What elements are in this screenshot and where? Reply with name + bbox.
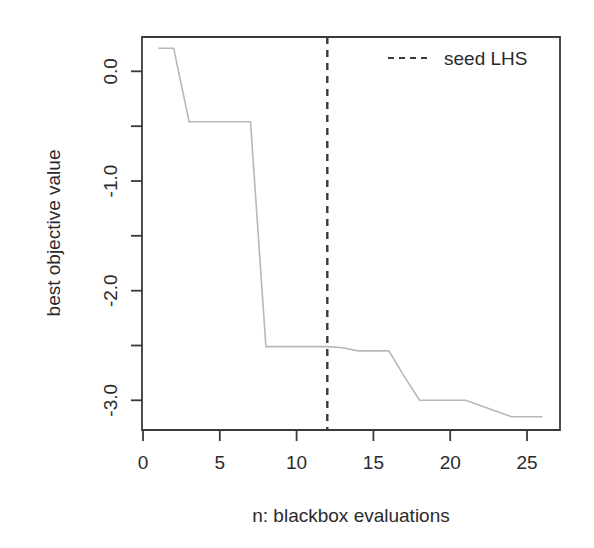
y-axis-title: best objective value [43,150,64,317]
y-tick-label-3: -3.0 [100,384,121,417]
y-axis-ticks [131,71,142,400]
y-tick-label-1: -1.0 [100,165,121,198]
chart-figure: 0.0 -1.0 -2.0 -3.0 0 5 10 15 20 25 n: bl… [0,0,594,548]
x-axis-tick-labels: 0 5 10 15 20 25 [138,452,538,473]
x-axis-title: n: blackbox evaluations [252,505,450,526]
x-tick-label-2: 10 [286,452,307,473]
data-line-path [158,48,542,417]
chart-canvas: 0.0 -1.0 -2.0 -3.0 0 5 10 15 20 25 n: bl… [0,0,594,548]
y-axis-tick-labels: 0.0 -1.0 -2.0 -3.0 [100,58,121,417]
x-axis-ticks [143,430,527,441]
y-tick-label-0: 0.0 [100,58,121,84]
legend: seed LHS [388,48,527,69]
x-tick-label-0: 0 [138,452,149,473]
series-best-objective-value [158,48,542,417]
x-tick-label-5: 25 [516,452,537,473]
x-tick-label-4: 20 [440,452,461,473]
x-tick-label-1: 5 [215,452,226,473]
y-tick-label-2: -2.0 [100,274,121,307]
x-tick-label-3: 15 [363,452,384,473]
plot-box [142,37,560,430]
legend-label-seed-lhs: seed LHS [444,48,527,69]
plot-frame [142,37,560,430]
